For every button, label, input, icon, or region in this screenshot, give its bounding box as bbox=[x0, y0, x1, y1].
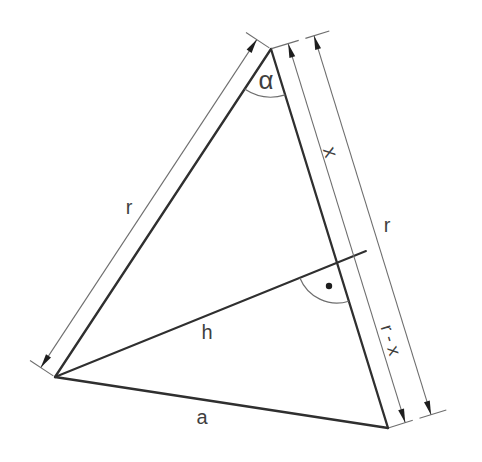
arrowheads bbox=[41, 36, 431, 423]
extension-tick-bottom-right-1 bbox=[389, 420, 413, 427]
triangle-base-a bbox=[55, 377, 388, 428]
extension-tick-apex-right-1 bbox=[272, 40, 299, 48]
extension-tick-apex-left bbox=[246, 33, 269, 48]
arrow-x-top bbox=[288, 44, 295, 58]
labels: α r x r r - x h a bbox=[126, 65, 405, 428]
triangle-side-left-r bbox=[55, 49, 271, 377]
triangle-outline bbox=[55, 49, 388, 428]
dim-line-r-right bbox=[314, 36, 431, 415]
label-r-minus-x: r - x bbox=[377, 322, 405, 357]
label-r-left: r bbox=[126, 196, 133, 218]
arrow-r-minus-x-bottom bbox=[398, 408, 405, 422]
dim-line-r-left bbox=[41, 40, 257, 368]
altitude-h-line bbox=[55, 251, 366, 377]
label-alpha: α bbox=[258, 65, 273, 95]
arrow-r-left-top bbox=[247, 40, 257, 53]
arrow-r-right-bottom bbox=[424, 400, 431, 414]
extension-tick-apex-right-2 bbox=[305, 31, 329, 38]
triangle-side-right-r bbox=[271, 49, 388, 428]
arrow-r-right-top bbox=[314, 36, 321, 50]
label-x: x bbox=[319, 144, 343, 160]
label-a: a bbox=[196, 406, 208, 428]
arrow-r-left-bottom bbox=[41, 354, 51, 367]
label-h: h bbox=[201, 321, 212, 343]
extension-tick-bottom-left bbox=[30, 361, 53, 376]
label-r-right: r bbox=[384, 214, 391, 236]
extension-tick-bottom-right-2 bbox=[420, 410, 447, 418]
geometry-diagram: α r x r r - x h a bbox=[0, 0, 482, 462]
right-angle-arc bbox=[300, 278, 349, 303]
diagram-svg: α r x r r - x h a bbox=[0, 0, 482, 462]
right-angle-dot bbox=[326, 283, 332, 289]
